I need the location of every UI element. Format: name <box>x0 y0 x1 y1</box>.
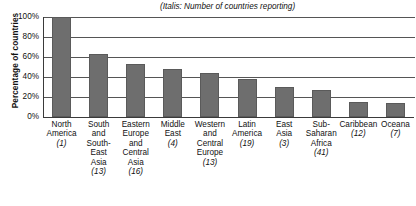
category-label: Oceana(7) <box>373 120 416 139</box>
bar <box>126 64 145 117</box>
y-tick-label-60: 60% <box>23 53 39 61</box>
category-label-line: Africa <box>299 139 344 148</box>
category-label-line: Asia <box>113 158 158 167</box>
y-tick-label-80: 80% <box>23 33 39 41</box>
y-tick-label-40: 40% <box>23 73 39 81</box>
bar <box>349 102 368 117</box>
bar <box>200 73 219 117</box>
category-label-line: Central <box>113 148 158 157</box>
bar <box>89 54 108 117</box>
y-tick-label-0: 0% <box>27 113 39 121</box>
bar-chart: (Italis: Number of countries reporting) … <box>0 0 416 206</box>
bar <box>386 103 405 117</box>
y-tick-label-100: 100% <box>18 13 39 21</box>
chart-note: (Italis: Number of countries reporting) <box>160 2 295 11</box>
bar <box>52 17 71 117</box>
x-axis-category-labels: NorthAmerica(1)SouthandSouth-EastAsia(13… <box>43 120 414 204</box>
country-count-label: (13) <box>187 158 232 167</box>
category-label-line: Europe <box>187 148 232 157</box>
bars-layer <box>43 17 414 117</box>
x-axis-line <box>43 117 414 118</box>
y-tick-label-20: 20% <box>23 93 39 101</box>
category-label-line: Oceana <box>373 120 416 129</box>
bar <box>163 69 182 117</box>
bar <box>238 79 257 117</box>
country-count-label: (7) <box>373 129 416 138</box>
bar <box>275 87 294 117</box>
country-count-label: (16) <box>113 167 158 176</box>
bar <box>312 90 331 117</box>
country-count-label: (41) <box>299 148 344 157</box>
y-axis-tick-labels: 100%80%60%40%20%0% <box>0 0 42 206</box>
